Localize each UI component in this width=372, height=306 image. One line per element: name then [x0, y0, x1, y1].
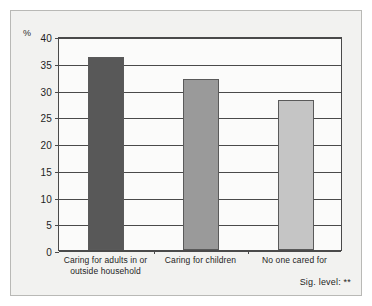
y-axis-tick-mark	[55, 92, 59, 93]
figure-container: % 0510152025303540 Caring for adults in …	[10, 10, 362, 296]
x-axis-category-label: Caring for children	[153, 255, 248, 266]
y-axis-tick-label: 40	[40, 33, 52, 44]
x-axis-category-label-line: Caring for children	[153, 255, 248, 266]
y-axis-tick-mark	[55, 252, 59, 253]
y-axis-tick-label: 15	[40, 167, 52, 178]
y-axis-tick-mark	[55, 38, 59, 39]
x-axis-tick-mark	[248, 250, 249, 254]
bar	[88, 57, 124, 250]
y-axis-tick-mark	[55, 118, 59, 119]
y-axis-tick-mark	[55, 225, 59, 226]
y-axis-tick-label: 30	[40, 87, 52, 98]
x-axis-category-label: No one cared for	[247, 255, 342, 266]
significance-level-note: Sig. level: **	[300, 277, 351, 287]
y-axis-tick-label: 20	[40, 140, 52, 151]
x-axis-category-label-line: outside household	[58, 266, 153, 277]
y-axis-tick-mark	[55, 199, 59, 200]
x-axis-category-label: Caring for adults in oroutside household	[58, 255, 153, 277]
x-axis-category-label-line: Caring for adults in or	[58, 255, 153, 266]
gridline	[59, 38, 341, 39]
y-axis-tick-mark	[55, 65, 59, 66]
y-axis-unit-label: %	[23, 28, 31, 38]
y-axis-tick-label: 0	[46, 247, 52, 258]
plot-area: 0510152025303540	[58, 37, 342, 251]
y-axis-tick-label: 25	[40, 113, 52, 124]
y-axis-tick-label: 5	[46, 220, 52, 231]
bar	[183, 79, 219, 250]
gridline	[59, 251, 341, 252]
y-axis-tick-label: 10	[40, 194, 52, 205]
bar	[278, 100, 314, 250]
y-axis-tick-mark	[55, 145, 59, 146]
x-axis-tick-mark	[154, 250, 155, 254]
y-axis-tick-label: 35	[40, 60, 52, 71]
y-axis-tick-mark	[55, 172, 59, 173]
x-axis-category-label-line: No one cared for	[247, 255, 342, 266]
